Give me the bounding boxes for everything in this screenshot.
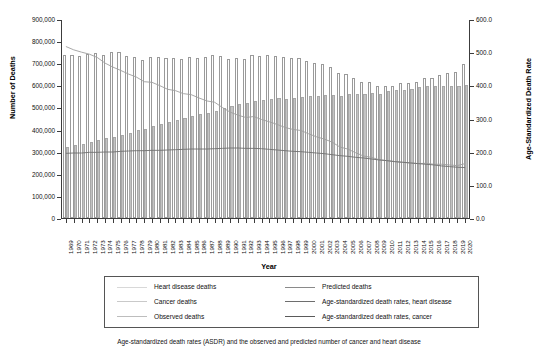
- x-axis-tick-label: 2000: [311, 240, 317, 254]
- x-axis-tick-label: 1997: [287, 240, 293, 254]
- legend-label: Heart disease deaths: [154, 283, 216, 291]
- x-axis-tick: [175, 219, 176, 223]
- y-axis-right-tick-label: 400.0: [476, 83, 492, 89]
- x-axis-tick: [426, 219, 427, 223]
- legend-swatch-line-mid-gray: [285, 287, 315, 288]
- x-axis-tick: [379, 219, 380, 223]
- x-axis-tick: [387, 219, 388, 223]
- legend-label: Cancer deaths: [154, 298, 197, 306]
- x-axis-tick-label: 1998: [295, 240, 301, 254]
- figure-container: Number of Deaths Age-Standardized Death …: [0, 0, 538, 354]
- x-axis-tick: [238, 219, 239, 223]
- x-axis-tick-label: 2019: [460, 240, 466, 254]
- x-axis-tick-label: 2014: [421, 240, 427, 254]
- x-axis-tick-label: 2004: [342, 240, 348, 254]
- x-axis-tick-label: 2003: [334, 240, 340, 254]
- x-axis-tick-label: 1975: [115, 240, 121, 254]
- x-axis-tick-label: 1991: [241, 240, 247, 254]
- x-axis-tick-label: 2005: [350, 240, 356, 254]
- y-axis-right-tick: [470, 20, 474, 21]
- x-axis-tick-label: 1979: [147, 240, 153, 254]
- x-axis-tick-label: 1988: [217, 240, 223, 254]
- x-axis-tick-label: 2012: [405, 240, 411, 254]
- legend-label: Observed deaths: [154, 313, 204, 321]
- legend-label: Age-standardized death rates, heart dise…: [322, 298, 452, 306]
- x-axis-tick-label: 1999: [303, 240, 309, 254]
- y-axis-left-tick-label: 700,000: [32, 61, 55, 67]
- x-axis-tick: [410, 219, 411, 223]
- x-axis-tick: [207, 219, 208, 223]
- y-axis-left-tick-label: 600,000: [32, 83, 55, 89]
- x-axis-tick: [82, 219, 83, 223]
- y-axis-left-tick-label: 200,000: [32, 172, 55, 178]
- x-axis-tick-label: 2008: [374, 240, 380, 254]
- legend-swatch-line-dark-gray: [285, 301, 315, 302]
- y-axis-right-tick: [470, 120, 474, 121]
- x-axis-tick: [442, 219, 443, 223]
- x-axis-tick: [129, 219, 130, 223]
- x-axis-tick: [277, 219, 278, 223]
- x-axis-tick: [262, 219, 263, 223]
- y-axis-left-tick-label: 300,000: [32, 149, 55, 155]
- y-axis-left-tick-label: 400,000: [32, 127, 55, 133]
- x-axis-tick-label: 2016: [436, 240, 442, 254]
- x-axis-tick: [121, 219, 122, 223]
- x-axis-tick-label: 2020: [467, 240, 473, 254]
- x-axis-tick: [269, 219, 270, 223]
- x-axis-tick: [246, 219, 247, 223]
- legend-label: Predicted deaths: [322, 283, 372, 291]
- x-axis-tick-label: 2018: [452, 240, 458, 254]
- x-axis-tick: [113, 219, 114, 223]
- plot-area: 0100,000200,000300,000400,000500,000600,…: [61, 20, 470, 219]
- legend-box: Heart disease deathsPredicted deathsCanc…: [104, 276, 479, 328]
- x-axis-tick-label: 1995: [272, 240, 278, 254]
- x-axis-tick: [105, 219, 106, 223]
- x-axis-tick: [371, 219, 372, 223]
- legend-swatch-bar-outline-light: [117, 287, 147, 288]
- y-axis-left-tick-label: 900,000: [32, 17, 55, 23]
- x-axis-tick-label: 2011: [397, 241, 403, 254]
- x-axis-tick-label: 2010: [389, 240, 395, 254]
- x-axis-tick: [457, 219, 458, 223]
- x-axis-tick-label: 2002: [327, 240, 333, 254]
- legend-item: Predicted deaths: [273, 283, 478, 291]
- x-axis-tick: [168, 219, 169, 223]
- x-axis-tick: [340, 219, 341, 223]
- x-axis-tick-label: 1977: [131, 240, 137, 254]
- x-axis-tick: [465, 219, 466, 223]
- x-axis-tick: [199, 219, 200, 223]
- x-axis-tick: [152, 219, 153, 223]
- x-axis-tick-label: 1989: [225, 240, 231, 254]
- legend-item: Heart disease deaths: [105, 283, 273, 291]
- line-series-group: [61, 20, 470, 219]
- x-axis-tick: [363, 219, 364, 223]
- y-axis-left-tick-label: 500,000: [32, 105, 55, 111]
- x-axis-tick-label: 1976: [123, 240, 129, 254]
- x-axis-tick: [309, 219, 310, 223]
- x-axis-tick: [136, 219, 137, 223]
- legend-item: Age-standardized death rates, heart dise…: [273, 298, 478, 306]
- y-axis-left-tick-label: 100,000: [32, 194, 55, 200]
- x-axis-tick-label: 1985: [194, 240, 200, 254]
- x-axis-tick: [74, 219, 75, 223]
- x-axis-tick-label: 1992: [248, 240, 254, 254]
- y-axis-left-tick-label: 800,000: [32, 39, 55, 45]
- x-axis-tick: [332, 219, 333, 223]
- x-axis-tick-label: 1982: [170, 240, 176, 254]
- x-axis-tick-label: 1981: [162, 240, 168, 254]
- x-axis-labels: 1969197019711972197319741975197619771978…: [61, 224, 470, 258]
- legend-swatch-line-light-gray: [117, 316, 147, 317]
- y-axis-right-tick-label: 300.0: [476, 116, 492, 122]
- x-axis-tick-label: 1996: [280, 240, 286, 254]
- x-axis-tick: [230, 219, 231, 223]
- legend-swatch-bar-fill-gray: [117, 301, 147, 302]
- legend-item: Cancer deaths: [105, 298, 273, 306]
- y-axis-right-tick-label: 500.0: [476, 50, 492, 56]
- y-axis-right-tick: [470, 186, 474, 187]
- x-axis-tick-label: 1993: [256, 240, 262, 254]
- x-axis-tick-label: 1974: [107, 240, 113, 254]
- x-axis-tick: [356, 219, 357, 223]
- y-axis-right-tick-label: 600.0: [476, 17, 492, 23]
- x-axis-tick-label: 1980: [154, 240, 160, 254]
- y-axis-right-tick: [470, 219, 474, 220]
